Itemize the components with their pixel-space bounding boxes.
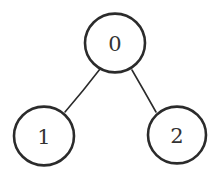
- node-label-0: 0: [108, 32, 121, 56]
- tree-edge-0-1: [65, 69, 100, 112]
- node-label-1: 1: [37, 125, 50, 149]
- tree-node-1[interactable]: 1: [14, 107, 74, 166]
- edges-group: [65, 69, 156, 112]
- node-label-2: 2: [170, 124, 183, 148]
- diagram-canvas: 012: [0, 0, 218, 184]
- tree-node-2[interactable]: 2: [148, 107, 206, 164]
- tree-diagram: 012: [0, 0, 218, 184]
- nodes-group: 012: [14, 14, 206, 166]
- tree-node-0[interactable]: 0: [85, 14, 145, 73]
- tree-edge-0-2: [132, 70, 156, 112]
